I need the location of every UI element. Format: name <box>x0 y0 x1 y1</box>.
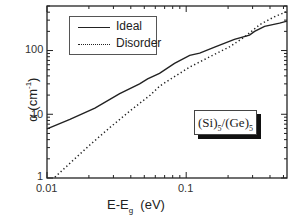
legend: Ideal Disorder <box>69 16 157 55</box>
x-axis-label: E-Eg (eV) <box>107 197 165 215</box>
y-tick-label-1: 1 <box>37 170 43 182</box>
dotted-line-swatch <box>78 44 110 45</box>
y-axis-label: α (cm-1) <box>24 70 39 130</box>
legend-item-ideal: Ideal <box>70 19 156 35</box>
x-tick-label-0.1: 0.1 <box>178 182 193 194</box>
x-tick-label-0.01: 0.01 <box>36 182 57 194</box>
solid-line-swatch <box>78 27 110 28</box>
material-annotation: (Si)5/(Ge)5 <box>194 110 257 135</box>
y-tick-label-100: 100 <box>25 43 43 55</box>
legend-item-disorder: Disorder <box>70 36 156 52</box>
